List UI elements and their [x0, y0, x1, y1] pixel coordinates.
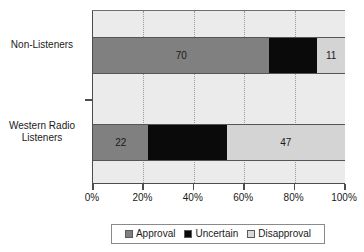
legend-label: Disapproval: [258, 229, 311, 239]
bar-segment-disapproval: 47: [227, 124, 345, 161]
legend: Approval Uncertain Disapproval: [111, 224, 325, 244]
bar-segment-uncertain: 31: [148, 124, 226, 161]
legend-label: Uncertain: [195, 229, 238, 239]
legend-item-approval: Approval: [125, 229, 175, 239]
x-axis-tick: [294, 184, 296, 190]
x-axis-tick-label: 40%: [170, 192, 216, 203]
legend-swatch-icon: [125, 230, 133, 238]
category-label-non-listeners: Non-Listeners: [0, 39, 84, 51]
legend-swatch-icon: [184, 230, 192, 238]
y-axis-tick: [85, 99, 92, 101]
stacked-bar-chart: 70 19 11 22 31 47 Non-Listeners Western …: [0, 0, 364, 252]
category-label-western-radio-listeners: Western Radio Listeners: [0, 120, 84, 144]
bar-group-non-listeners: 70 19 11: [93, 37, 345, 74]
bar-segment-disapproval: 11: [317, 37, 345, 74]
x-axis-tick: [344, 184, 346, 190]
bar-value-label: 47: [280, 138, 291, 148]
legend-swatch-icon: [247, 230, 255, 238]
x-axis-tick-label: 20%: [119, 192, 165, 203]
bar-value-label: 22: [115, 138, 126, 148]
bar-segment-uncertain: 19: [269, 37, 317, 74]
x-axis-tick: [193, 184, 195, 190]
bar-group-western-radio-listeners: 22 31 47: [93, 124, 345, 161]
legend-label: Approval: [136, 229, 175, 239]
x-axis-tick-label: 0%: [69, 192, 115, 203]
category-label-line: Listeners: [0, 132, 84, 144]
x-axis-tick-label: 80%: [271, 192, 317, 203]
bar-value-label: 70: [176, 51, 187, 61]
category-label-line: Non-Listeners: [0, 39, 84, 51]
legend-item-disapproval: Disapproval: [247, 229, 311, 239]
bar-value-label: 11: [326, 51, 336, 61]
x-axis-tick: [92, 184, 94, 190]
x-axis-tick: [243, 184, 245, 190]
bar-segment-approval: 22: [93, 124, 148, 161]
x-axis-tick-label: 60%: [220, 192, 266, 203]
plot-area: 70 19 11 22 31 47: [92, 11, 345, 184]
bar-segment-approval: 70: [93, 37, 269, 74]
x-axis-tick: [142, 184, 144, 190]
legend-item-uncertain: Uncertain: [184, 229, 238, 239]
category-label-line: Western Radio: [0, 120, 84, 132]
x-axis-tick-label: 100%: [321, 192, 364, 203]
